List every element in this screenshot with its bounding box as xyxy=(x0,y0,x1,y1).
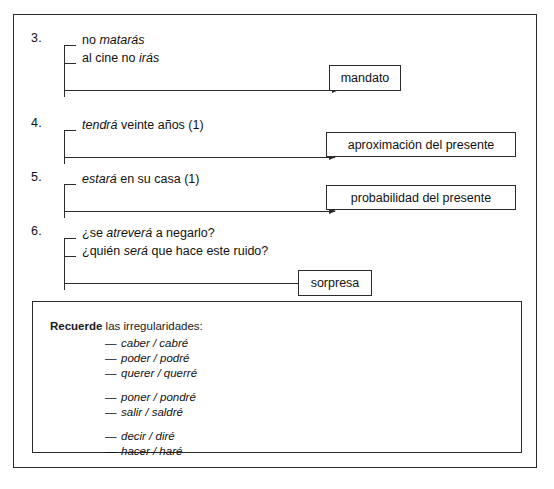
arrow-to-result xyxy=(64,211,335,212)
result-box-sorpresa: sorpresa xyxy=(298,270,372,296)
entry-number: 4. xyxy=(31,116,42,131)
note-item: —salir / saldré xyxy=(105,405,197,420)
entry-number: 6. xyxy=(31,224,42,239)
entry-lines: ¿se atreverá a negarlo? ¿quién será que … xyxy=(82,224,268,260)
note-item: —querer / querré xyxy=(105,366,197,381)
note-item: —poder / podré xyxy=(105,351,197,366)
em-dash-icon: — xyxy=(105,366,121,381)
bracket-stub xyxy=(64,130,76,131)
line-post: a negarlo? xyxy=(152,226,215,240)
note-item-text: poner / pondré xyxy=(121,391,196,403)
note-group: —poner / pondré —salir / saldré xyxy=(105,390,197,420)
line-verb: matarás xyxy=(99,33,144,47)
line-pre: no xyxy=(82,33,99,47)
line-post: en su casa (1) xyxy=(117,172,200,186)
note-item: —hacer / haré xyxy=(105,444,197,459)
result-box-aproximacion: aproximación del presente xyxy=(326,132,516,157)
line-pre: ¿se xyxy=(82,226,106,240)
note-item: —caber / cabré xyxy=(105,336,197,351)
note-item-text: decir / diré xyxy=(121,430,175,442)
line-post: que hace este ruido? xyxy=(148,244,268,258)
line-verb: tendrá xyxy=(82,118,117,132)
em-dash-icon: — xyxy=(105,390,121,405)
note-box-recuerde: Recuerde las irregularidades: —caber / c… xyxy=(32,301,522,453)
entry-lines: estará en su casa (1) xyxy=(82,170,199,188)
line-verb: estará xyxy=(82,172,117,186)
note-groups: —caber / cabré —poder / podré —querer / … xyxy=(105,336,197,459)
arrow-to-result xyxy=(64,157,335,158)
note-title: Recuerde las irregularidades: xyxy=(50,319,203,333)
em-dash-icon: — xyxy=(105,336,121,351)
note-item: —poner / pondré xyxy=(105,390,197,405)
note-title-bold: Recuerde xyxy=(50,320,102,332)
entry-number: 5. xyxy=(31,170,42,185)
note-title-rest: las irregularidades: xyxy=(102,320,202,332)
note-item-text: salir / saldré xyxy=(121,406,183,418)
entry-line: ¿se atreverá a negarlo? xyxy=(82,224,268,242)
bracket-stub xyxy=(64,45,76,46)
result-label: mandato xyxy=(341,71,390,85)
line-pre: ¿quién xyxy=(82,244,124,258)
entry-line: al cine no irás xyxy=(82,49,159,67)
result-box-mandato: mandato xyxy=(329,65,401,91)
line-post: veinte años (1) xyxy=(117,118,203,132)
entry-line: ¿quién será que hace este ruido? xyxy=(82,242,268,260)
note-group: —decir / diré —hacer / haré xyxy=(105,429,197,459)
line-verb: atreverá xyxy=(106,226,152,240)
note-group: —caber / cabré —poder / podré —querer / … xyxy=(105,336,197,381)
worksheet-page: 3. no matarás al cine no irás mandato 4. xyxy=(0,0,554,489)
entry-line: no matarás xyxy=(82,31,159,49)
result-label: probabilidad del presente xyxy=(351,191,491,205)
bracket-spine xyxy=(64,130,65,164)
bracket-stub xyxy=(64,63,76,64)
result-label: sorpresa xyxy=(311,276,360,290)
bracket-spine xyxy=(64,184,65,218)
outer-frame: 3. no matarás al cine no irás mandato 4. xyxy=(13,14,537,468)
line-verb: será xyxy=(124,244,148,258)
note-item-text: poder / podré xyxy=(121,352,189,364)
entry-number: 3. xyxy=(31,31,42,46)
result-label: aproximación del presente xyxy=(348,138,495,152)
entry-line: tendrá veinte años (1) xyxy=(82,116,204,134)
note-item-text: hacer / haré xyxy=(121,445,182,457)
note-item-text: caber / cabré xyxy=(121,337,188,349)
em-dash-icon: — xyxy=(105,429,121,444)
bracket-stub xyxy=(64,238,76,239)
arrow-to-result xyxy=(64,90,338,91)
line-pre: al cine no xyxy=(82,51,139,65)
line-verb: irás xyxy=(139,51,159,65)
bracket-stub xyxy=(64,256,76,257)
arrow-to-result xyxy=(64,283,307,284)
entry-lines: no matarás al cine no irás xyxy=(82,31,159,67)
em-dash-icon: — xyxy=(105,351,121,366)
note-item-text: querer / querré xyxy=(121,367,197,379)
entry-line: estará en su casa (1) xyxy=(82,170,199,188)
em-dash-icon: — xyxy=(105,405,121,420)
entry-lines: tendrá veinte años (1) xyxy=(82,116,204,134)
em-dash-icon: — xyxy=(105,444,121,459)
note-item: —decir / diré xyxy=(105,429,197,444)
bracket-stub xyxy=(64,184,76,185)
result-box-probabilidad: probabilidad del presente xyxy=(326,185,516,210)
